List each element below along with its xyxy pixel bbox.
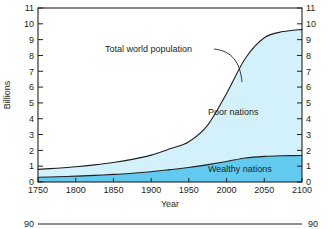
y-tick-label-right: 6 bbox=[306, 82, 311, 92]
y-tick-label-right: 2 bbox=[306, 146, 311, 156]
x-tick-label: 1850 bbox=[103, 185, 123, 195]
y-tick-label-left: 4 bbox=[29, 114, 34, 124]
y-tick-label-right: 9 bbox=[306, 35, 311, 45]
x-tick-label: 2050 bbox=[254, 185, 274, 195]
next-chart-left-tick-label: 90 bbox=[24, 219, 34, 229]
next-chart-right-tick-label: 90 bbox=[308, 219, 318, 229]
y-tick-label-right: 7 bbox=[306, 67, 311, 77]
y-tick-label-left: 3 bbox=[29, 130, 34, 140]
y-tick-label-right: 3 bbox=[306, 130, 311, 140]
y-tick-label-right: 1 bbox=[306, 161, 311, 171]
x-tick-label: 1900 bbox=[141, 185, 161, 195]
y-tick-label-right: 11 bbox=[306, 3, 315, 13]
y-tick-label-left: 5 bbox=[29, 98, 34, 108]
x-tick-label: 1750 bbox=[28, 185, 48, 195]
y-axis-title: Billions bbox=[2, 80, 12, 109]
y-tick-label-left: 2 bbox=[29, 146, 34, 156]
population-chart-figure: 01234567891011 01234567891011 1750180018… bbox=[0, 0, 332, 229]
y-tick-label-right: 8 bbox=[306, 51, 311, 61]
x-tick-label: 2100 bbox=[292, 185, 312, 195]
x-tick-label: 1950 bbox=[179, 185, 199, 195]
y-tick-label-right: 10 bbox=[306, 19, 316, 29]
y-tick-label-left: 10 bbox=[24, 19, 34, 29]
y-tick-label-left: 8 bbox=[29, 51, 34, 61]
label-wealthy-nations: Wealthy nations bbox=[208, 164, 272, 174]
x-tick-label: 2000 bbox=[217, 185, 237, 195]
y-tick-label-left: 1 bbox=[29, 161, 34, 171]
y-tick-label-left: 9 bbox=[29, 35, 34, 45]
y-tick-label-left: 7 bbox=[29, 67, 34, 77]
annotation-total-world-population: Total world population bbox=[105, 44, 192, 54]
x-axis-title: Year bbox=[161, 199, 179, 209]
chart-svg: 01234567891011 01234567891011 1750180018… bbox=[0, 0, 332, 229]
x-tick-label: 1800 bbox=[66, 185, 86, 195]
y-tick-label-left: 6 bbox=[29, 82, 34, 92]
y-tick-label-right: 5 bbox=[306, 98, 311, 108]
label-poor-nations: Poor nations bbox=[208, 107, 259, 117]
y-tick-label-left: 11 bbox=[25, 3, 34, 13]
y-tick-label-right: 4 bbox=[306, 114, 311, 124]
